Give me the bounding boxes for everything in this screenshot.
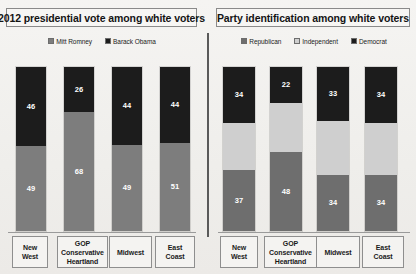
category-label-line: Heartland (61, 257, 104, 266)
category-label-line: New (231, 243, 247, 252)
bar-value-label: 22 (282, 81, 290, 89)
bar-segment[interactable]: 44 (112, 67, 142, 145)
bar-segment[interactable]: 48 (270, 152, 302, 231)
bar-value-label: 26 (75, 86, 83, 94)
category-label-text: GOPConservativeHeartland (61, 239, 104, 266)
bar-value-label: 34 (235, 91, 243, 99)
bar-segment[interactable]: 34 (223, 67, 255, 123)
category-label-box: Midwest (316, 236, 360, 268)
legend-item[interactable]: Mitt Romney (48, 38, 92, 45)
panel-title-box: 2012 presidential vote among white voter… (6, 8, 197, 27)
panel-title-box: Party identification among white voters (216, 8, 410, 27)
bar-value-label: 49 (27, 185, 35, 193)
bar-segment[interactable]: 34 (317, 175, 349, 231)
legend-item[interactable]: Democrat (351, 38, 387, 45)
bar-segment[interactable]: 49 (16, 146, 46, 231)
bar-segment[interactable] (223, 123, 255, 171)
category-label-text: Midwest (325, 248, 352, 257)
category-label-line: GOP (269, 239, 312, 248)
category-label-box: NewWest (220, 236, 258, 268)
category-label-text: EastCoast (374, 243, 393, 261)
bar-value-label: 48 (282, 188, 290, 196)
axis-baseline (218, 232, 410, 233)
category-label-text: GOPConservativeHeartland (269, 239, 312, 266)
legend-label: Mitt Romney (56, 38, 92, 45)
bar-stack[interactable]: 3334 (316, 66, 350, 232)
bar-value-label: 44 (171, 101, 179, 109)
category-label-text: Midwest (117, 248, 144, 257)
legend-item[interactable]: Republican (241, 38, 281, 45)
legend: RepublicanIndependentDemocrat (212, 35, 416, 47)
bar-segment[interactable]: 34 (365, 67, 397, 123)
category-label-line: Midwest (325, 248, 352, 257)
page-title: 2012 presidential vote among white voter… (0, 12, 205, 24)
bar-value-label: 44 (123, 102, 131, 110)
bar-segment[interactable]: 46 (16, 67, 46, 146)
category-label-line: GOP (61, 239, 104, 248)
category-label-box: NewWest (12, 236, 48, 268)
bar-value-label: 34 (377, 199, 385, 207)
category-label-line: Heartland (269, 257, 312, 266)
bar-value-label: 49 (123, 184, 131, 192)
bar-segment[interactable]: 33 (317, 67, 349, 121)
legend-label: Democrat (359, 38, 387, 45)
bar-value-label: 34 (329, 199, 337, 207)
category-label-box: GOPConservativeHeartland (57, 236, 108, 268)
panel-divider (207, 33, 209, 237)
bar-value-label: 46 (27, 103, 35, 111)
legend-item[interactable]: Barack Obama (105, 38, 156, 45)
legend-label: Republican (249, 38, 281, 45)
bar-segment[interactable]: 22 (270, 67, 302, 103)
bar-segment[interactable] (365, 123, 397, 175)
category-label-text: NewWest (231, 243, 247, 261)
page-title: Party identification among white voters (217, 12, 409, 24)
legend-swatch-icon (241, 38, 247, 44)
category-label-line: West (231, 252, 247, 261)
category-label-line: East (166, 243, 185, 252)
category-label-line: East (374, 243, 393, 252)
bar-stack[interactable]: 4449 (111, 66, 143, 232)
category-label-text: EastCoast (166, 243, 185, 261)
category-label-line: Midwest (117, 248, 144, 257)
legend-label: Barack Obama (113, 38, 156, 45)
legend: Mitt RomneyBarack Obama (0, 35, 204, 47)
bar-segment[interactable]: 49 (112, 145, 142, 231)
category-label-line: Coast (166, 252, 185, 261)
category-labels: NewWestGOPConservativeHeartlandMidwestEa… (212, 236, 416, 270)
legend-swatch-icon (105, 38, 111, 44)
category-label-line: West (22, 252, 38, 261)
bar-value-label: 68 (75, 168, 83, 176)
bar-stack[interactable]: 2248 (269, 66, 303, 232)
category-label-line: New (22, 243, 38, 252)
legend-swatch-icon (294, 38, 300, 44)
plot-area: 4649266844494451 (0, 66, 204, 232)
bar-segment[interactable] (317, 121, 349, 175)
legend-label: Independent (302, 38, 338, 45)
panel-party-identification: Party identification among white voters … (212, 0, 416, 274)
bar-segment[interactable] (270, 103, 302, 152)
bar-segment[interactable]: 34 (365, 175, 397, 231)
axis-baseline (8, 232, 196, 233)
plot-area: 3437224833343434 (212, 66, 416, 232)
panel-presidential-vote: 2012 presidential vote among white voter… (0, 0, 204, 274)
bar-segment[interactable]: 37 (223, 170, 255, 231)
bar-segment[interactable]: 51 (160, 143, 190, 231)
legend-item[interactable]: Independent (294, 38, 338, 45)
category-label-box: EastCoast (362, 236, 404, 268)
legend-swatch-icon (351, 38, 357, 44)
bar-value-label: 51 (171, 183, 179, 191)
chart-figure: 2012 presidential vote among white voter… (0, 0, 416, 274)
bar-stack[interactable]: 3434 (364, 66, 398, 232)
category-label-line: Coast (374, 252, 393, 261)
bar-segment[interactable]: 68 (64, 112, 94, 231)
bar-segment[interactable]: 44 (160, 67, 190, 143)
bar-stack[interactable]: 2668 (63, 66, 95, 232)
bar-stack[interactable]: 3437 (222, 66, 256, 232)
bar-stack[interactable]: 4649 (15, 66, 47, 232)
bar-value-label: 34 (377, 91, 385, 99)
legend-swatch-icon (48, 38, 54, 44)
category-label-line: Conservative (269, 248, 312, 257)
bar-stack[interactable]: 4451 (159, 66, 191, 232)
bar-segment[interactable]: 26 (64, 67, 94, 112)
category-label-box: GOPConservativeHeartland (264, 236, 317, 268)
